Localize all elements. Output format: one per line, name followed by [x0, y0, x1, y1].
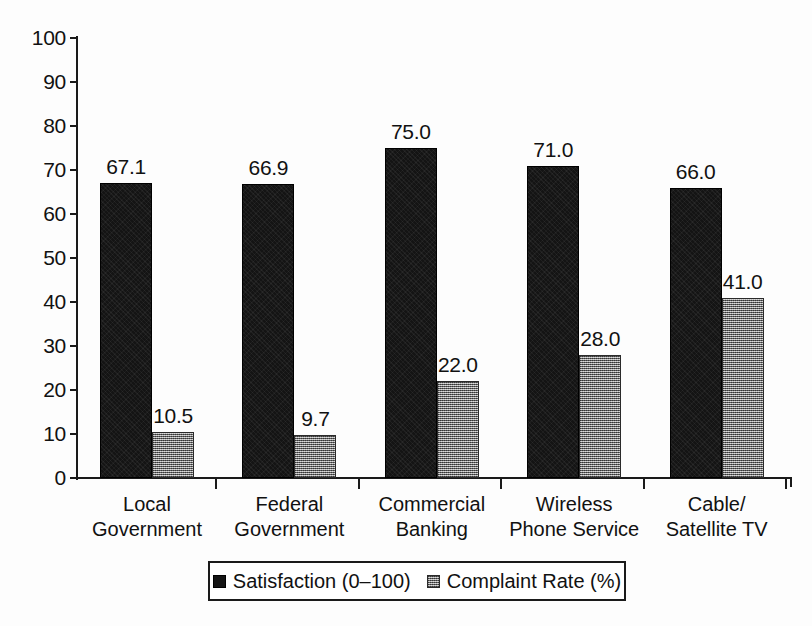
bar-satisfaction [100, 183, 152, 478]
bar-complaint-rate [579, 355, 621, 478]
y-axis-label: 50 [6, 247, 66, 268]
y-axis-label: 100 [6, 27, 66, 48]
bar-value-label: 75.0 [371, 121, 451, 142]
y-axis-tick [70, 433, 78, 435]
legend-entry-complaint-rate: Complaint Rate (%) [427, 571, 622, 591]
plot-area: 67.110.566.99.775.022.071.028.066.041.0 [78, 38, 790, 478]
bar-value-label: 41.0 [703, 271, 783, 292]
bar-complaint-rate [294, 435, 336, 478]
y-axis-tick [70, 169, 78, 171]
dark-square-icon [213, 575, 226, 588]
y-axis-tick [70, 37, 78, 39]
bar-value-label: 66.9 [228, 157, 308, 178]
y-axis-tick [70, 81, 78, 83]
bar-value-label: 66.0 [656, 161, 736, 182]
x-axis-tick [358, 478, 360, 489]
y-axis-tick [70, 301, 78, 303]
bar-complaint-rate [722, 298, 764, 478]
bar-chart: 0102030405060708090100 Local GovernmentF… [0, 0, 812, 626]
y-axis-label: 60 [6, 203, 66, 224]
bar-value-label: 9.7 [275, 408, 355, 429]
y-axis-tick [70, 477, 78, 479]
legend-entry-satisfaction: Satisfaction (0–100) [213, 571, 411, 591]
y-axis-label: 40 [6, 291, 66, 312]
chart-legend: Satisfaction (0–100) Complaint Rate (%) [208, 561, 626, 601]
y-axis-tick [70, 213, 78, 215]
bar-satisfaction [670, 188, 722, 478]
legend-label-satisfaction: Satisfaction (0–100) [233, 571, 411, 591]
bar-complaint-rate [152, 432, 194, 478]
y-axis-tick [70, 345, 78, 347]
y-axis-label: 90 [6, 71, 66, 92]
x-axis-category-label: Cable/ Satellite TV [632, 492, 802, 542]
bar-complaint-rate [437, 381, 479, 478]
y-axis-tick [70, 257, 78, 259]
bar-satisfaction [242, 184, 294, 478]
y-axis-label: 30 [6, 335, 66, 356]
y-axis-label: 70 [6, 159, 66, 180]
y-axis-tick [70, 389, 78, 391]
x-axis-end-tick [790, 477, 792, 487]
x-axis-tick [643, 478, 645, 489]
x-axis-tick [215, 478, 217, 489]
x-axis-tick [785, 478, 787, 489]
bar-value-label: 67.1 [86, 156, 166, 177]
bar-value-label: 71.0 [513, 139, 593, 160]
bar-value-label: 28.0 [560, 328, 640, 349]
y-axis-tick [70, 125, 78, 127]
gray-square-icon [427, 575, 440, 588]
y-axis-label: 10 [6, 423, 66, 444]
x-axis-tick [500, 478, 502, 489]
bar-value-label: 10.5 [133, 405, 213, 426]
y-axis-label: 0 [6, 467, 66, 488]
y-axis-label: 20 [6, 379, 66, 400]
bar-value-label: 22.0 [418, 354, 498, 375]
y-axis-label: 80 [6, 115, 66, 136]
bar-satisfaction [527, 166, 579, 478]
legend-label-complaint-rate: Complaint Rate (%) [447, 571, 622, 591]
bar-satisfaction [385, 148, 437, 478]
